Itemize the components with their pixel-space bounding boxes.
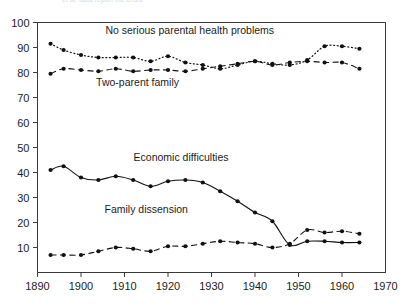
y-axis-tick-label: 10 [17,242,29,254]
series-label: No serious parental health problems [105,24,274,36]
x-axis-tick-label: 1970 [373,280,397,292]
data-point-marker [270,219,274,223]
line-chart: 1020304050607080901001890190019101920193… [0,0,411,307]
series-label: Two-parent family [96,76,180,88]
y-axis-tick-label: 50 [17,142,29,154]
data-point-marker [166,68,170,72]
data-point-marker [48,168,52,172]
data-point-marker [183,244,187,248]
data-point-marker [183,60,187,64]
y-axis-tick-label: 40 [17,167,29,179]
data-point-marker [253,210,257,214]
data-point-marker [305,239,309,243]
series-1 [48,42,361,71]
data-point-marker [166,244,170,248]
data-point-marker [357,240,361,244]
x-axis-tick-label: 1890 [25,280,49,292]
y-axis-tick-label: 30 [17,192,29,204]
data-point-marker [323,230,327,234]
data-point-marker [340,60,344,64]
data-point-marker [201,67,205,71]
data-point-marker [288,60,292,64]
x-axis-tick-label: 1900 [69,280,93,292]
data-point-marker [183,178,187,182]
x-axis-tick-label: 1930 [199,280,223,292]
plot-frame [38,23,386,273]
x-axis-tick-label: 1920 [156,280,180,292]
data-point-marker [79,175,83,179]
data-point-marker [96,55,100,59]
y-axis-tick-label: 80 [17,67,29,79]
data-point-marker [114,245,118,249]
data-point-marker [323,60,327,64]
x-axis-tick-label: 1910 [112,280,136,292]
data-point-marker [96,249,100,253]
series-label: Family dissension [105,203,189,215]
data-point-marker [48,253,52,257]
data-point-marker [48,72,52,76]
data-point-marker [357,47,361,51]
series-3 [48,164,361,247]
data-point-marker [79,53,83,57]
y-axis-tick-label: 70 [17,92,29,104]
data-point-marker [131,247,135,251]
data-point-marker [183,69,187,73]
series-2 [48,59,361,76]
data-point-marker [340,229,344,233]
data-point-marker [96,69,100,73]
data-point-marker [79,68,83,72]
data-point-marker [149,59,153,63]
data-point-marker [357,232,361,236]
data-point-marker [62,67,66,71]
data-point-marker [305,59,309,63]
data-point-marker [62,253,66,257]
data-point-marker [131,178,135,182]
data-point-marker [62,48,66,52]
data-point-marker [166,179,170,183]
data-point-marker [323,44,327,48]
x-axis-tick-label: 1950 [286,280,310,292]
data-point-marker [253,242,257,246]
y-axis-tick-label: 60 [17,117,29,129]
data-point-marker [253,59,257,63]
data-point-marker [114,174,118,178]
data-point-marker [131,55,135,59]
caption-fragment: et al. data report the crisis [62,0,143,3]
series-4 [48,228,361,257]
data-point-marker [218,239,222,243]
y-axis-tick-label: 100 [11,17,29,29]
data-point-marker [149,184,153,188]
data-point-marker [114,67,118,71]
data-point-marker [201,180,205,184]
data-point-marker [201,63,205,67]
data-point-marker [149,249,153,253]
data-point-marker [357,67,361,71]
data-point-marker [96,178,100,182]
data-point-marker [236,240,240,244]
data-point-marker [201,242,205,246]
x-axis-tick-label: 1940 [243,280,267,292]
data-point-marker [166,54,170,58]
data-point-marker [270,63,274,67]
data-point-marker [79,253,83,257]
data-point-marker [270,245,274,249]
data-point-marker [236,199,240,203]
y-axis-tick-label: 20 [17,217,29,229]
data-point-marker [149,68,153,72]
data-point-marker [218,189,222,193]
series-label: Economic difficulties [134,151,229,163]
data-point-marker [236,62,240,66]
data-point-marker [288,242,292,246]
data-point-marker [62,164,66,168]
x-axis-tick-label: 1960 [330,280,354,292]
y-axis-tick-label: 90 [17,42,29,54]
data-point-marker [114,55,118,59]
data-point-marker [218,64,222,68]
data-point-marker [340,44,344,48]
figure: et al. data report the crisis 1020304050… [0,0,411,307]
data-point-marker [340,240,344,244]
series-line [51,166,360,246]
data-point-marker [305,228,309,232]
data-point-marker [323,239,327,243]
data-point-marker [48,42,52,46]
